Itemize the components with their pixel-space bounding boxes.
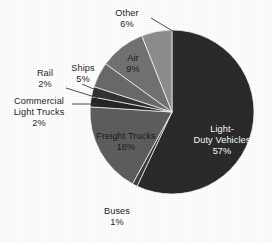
slice-value-other: 6% (104, 19, 150, 30)
slice-label-buses: Buses 1% (93, 206, 141, 228)
slice-label-light-duty-vehicles-line2: Duty Vehicles (183, 135, 261, 146)
slice-label-ships: Ships 5% (62, 63, 104, 85)
slice-value-air: 9% (113, 64, 153, 75)
slice-label-light-duty-vehicles-line1: Light- (183, 124, 261, 135)
slice-label-rail: Rail 2% (26, 68, 64, 90)
slice-label-freight-trucks: Freight Trucks 18% (82, 131, 170, 153)
slice-value-commercial-light-trucks: 2% (2, 118, 76, 129)
slice-value-freight-trucks: 18% (82, 142, 170, 153)
slice-label-air-name: Air (113, 53, 153, 64)
slice-label-air: Air 9% (113, 53, 153, 75)
slice-label-ships-name: Ships (62, 63, 104, 74)
pie-chart: Light- Duty Vehicles 57% Freight Trucks … (0, 0, 272, 243)
slice-label-light-duty-vehicles: Light- Duty Vehicles 57% (183, 124, 261, 157)
slice-label-commercial-light-trucks-line1: Commercial (2, 96, 76, 107)
slice-label-commercial-light-trucks: Commercial Light Trucks 2% (2, 96, 76, 129)
slice-label-freight-trucks-name: Freight Trucks (82, 131, 170, 142)
slice-label-buses-name: Buses (93, 206, 141, 217)
slice-value-buses: 1% (93, 217, 141, 228)
slice-value-light-duty-vehicles: 57% (183, 146, 261, 157)
slice-label-other-name: Other (104, 8, 150, 19)
slice-value-rail: 2% (26, 79, 64, 90)
slice-label-other: Other 6% (104, 8, 150, 30)
slice-label-commercial-light-trucks-line2: Light Trucks (2, 107, 76, 118)
slice-label-rail-name: Rail (26, 68, 64, 79)
slice-value-ships: 5% (62, 74, 104, 85)
